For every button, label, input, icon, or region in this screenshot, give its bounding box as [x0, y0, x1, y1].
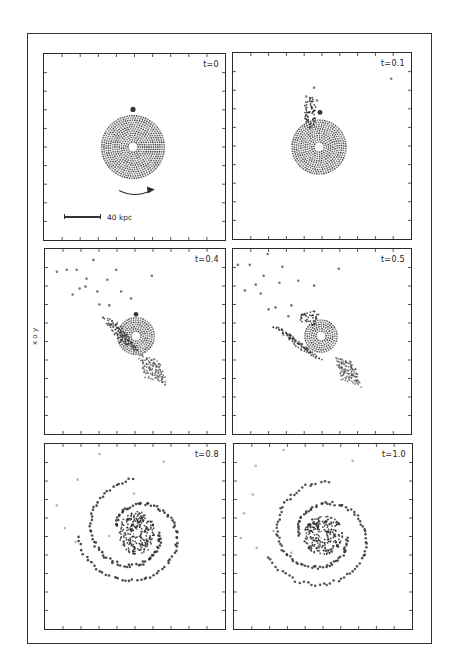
time-label: t=0.4 [195, 255, 219, 264]
scale-bar-line [64, 216, 101, 217]
time-label: t=0 [203, 60, 219, 69]
galaxy-plot [234, 444, 412, 629]
panel-t0.4: t=0.4 [44, 248, 226, 435]
scale-bar: 40 kpc [64, 213, 132, 221]
time-label: t=0.1 [381, 59, 405, 68]
galaxy-plot [45, 249, 225, 434]
y-axis-label: x o y [31, 328, 39, 345]
time-label: t=1.0 [382, 450, 406, 459]
galaxy-plot [233, 53, 411, 239]
panel-t0.5: t=0.5 [232, 248, 412, 435]
galaxy-plot [45, 444, 225, 629]
time-label: t=0.8 [195, 450, 219, 459]
scale-bar-label: 40 kpc [107, 213, 132, 222]
panel-t0.1: t=0.1 [232, 52, 412, 240]
time-label: t=0.5 [381, 255, 405, 264]
panel-t0: t=0 40 kpc [43, 53, 226, 241]
panel-t0.8: t=0.8 [44, 443, 226, 630]
panel-t1.0: t=1.0 [233, 443, 413, 630]
galaxy-plot [233, 249, 411, 434]
